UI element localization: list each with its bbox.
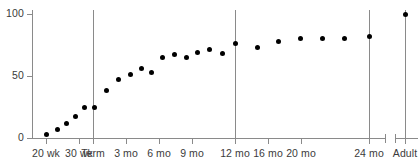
y-tick-label: 50: [12, 69, 24, 81]
y-tick-label: 100: [6, 7, 24, 19]
reference-line-Adult: [405, 10, 406, 142]
x-tick: [159, 139, 160, 144]
data-point: [160, 55, 165, 60]
axis-break-tick: [385, 134, 386, 143]
x-tick: [301, 139, 302, 144]
x-tick: [126, 139, 127, 144]
data-point: [207, 47, 212, 52]
data-point: [220, 51, 225, 56]
data-point: [73, 114, 78, 119]
data-point: [44, 132, 49, 137]
data-point: [233, 41, 238, 46]
x-axis-line: [32, 138, 385, 139]
data-point: [320, 36, 325, 41]
data-point: [184, 55, 189, 60]
data-point: [276, 39, 281, 44]
data-point: [172, 52, 177, 57]
x-tick-label: 20 mo: [271, 147, 331, 159]
y-tick: [27, 14, 32, 15]
axis-break-tick: [395, 134, 396, 143]
data-point: [195, 50, 200, 55]
y-tick: [27, 76, 32, 77]
data-point: [139, 66, 144, 71]
reference-line-12-mo: [235, 10, 236, 142]
data-point: [298, 36, 303, 41]
x-tick: [46, 139, 47, 144]
data-point: [92, 105, 97, 110]
data-point: [55, 127, 60, 132]
data-point: [64, 121, 69, 126]
data-point: [128, 72, 133, 77]
x-tick: [79, 139, 80, 144]
y-tick-label: 0: [18, 131, 24, 143]
x-tick-label: Adult: [375, 147, 418, 159]
reference-line-24-mo: [369, 10, 370, 142]
growth-scatter-chart: 050100 20 wk30 wkTerm3 mo6 mo9 mo12 mo16…: [0, 0, 418, 163]
data-point: [116, 77, 121, 82]
data-point: [104, 88, 109, 93]
data-point: [403, 12, 408, 17]
data-point: [342, 36, 347, 41]
data-point: [367, 34, 372, 39]
x-axis-line-after-break: [395, 138, 418, 139]
reference-line-Term: [93, 10, 94, 142]
x-tick: [192, 139, 193, 144]
data-point: [82, 105, 87, 110]
y-axis-line: [32, 10, 33, 139]
data-point: [149, 70, 154, 75]
data-point: [255, 45, 260, 50]
y-tick: [27, 138, 32, 139]
x-tick: [268, 139, 269, 144]
